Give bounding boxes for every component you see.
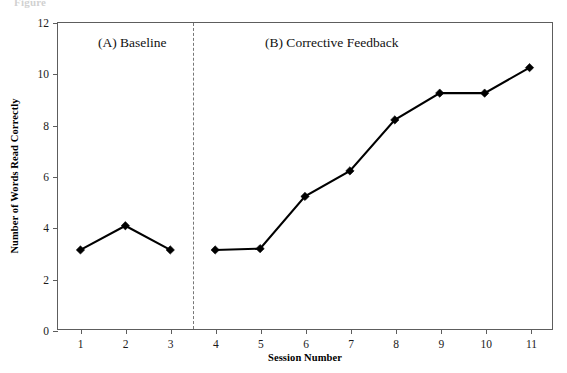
x-axis-tick: [486, 329, 487, 334]
x-axis-tick-label: 11: [526, 338, 537, 350]
x-axis-title: Session Number: [268, 352, 342, 363]
y-axis-tick: [53, 280, 58, 281]
x-axis-tick: [396, 329, 397, 334]
figure-root: Figure Number of Words Read Correctly Se…: [0, 0, 567, 373]
data-series-layer: [58, 23, 552, 329]
y-axis-tick-label: 2: [43, 274, 49, 286]
x-axis-tick: [81, 329, 82, 334]
data-point-marker: [256, 245, 264, 253]
y-axis-tick: [53, 74, 58, 75]
data-point-marker: [121, 222, 129, 230]
y-axis-tick-label: 12: [38, 17, 50, 29]
x-axis-tick-label: 6: [303, 338, 309, 350]
x-axis-tick: [261, 329, 262, 334]
y-axis-tick: [53, 331, 58, 332]
data-point-marker: [301, 192, 309, 200]
x-axis-tick: [306, 329, 307, 334]
y-axis-tick-label: 10: [38, 68, 50, 80]
x-axis-tick: [171, 329, 172, 334]
x-axis-tick-label: 5: [258, 338, 264, 350]
y-axis-tick-label: 0: [43, 325, 49, 337]
figure-caption-fragment: Figure: [14, 0, 46, 8]
data-point-marker: [346, 167, 354, 175]
phase-change-line: [193, 23, 194, 329]
x-axis-tick-label: 4: [213, 338, 219, 350]
x-axis-tick-label: 10: [481, 338, 493, 350]
data-point-marker: [166, 246, 174, 254]
x-axis-tick-label: 8: [393, 338, 399, 350]
y-axis-tick-label: 4: [43, 222, 49, 234]
data-point-marker: [211, 246, 219, 254]
y-axis-tick-label: 6: [43, 171, 49, 183]
y-axis-tick: [53, 126, 58, 127]
data-point-marker: [76, 246, 84, 254]
data-point-marker: [436, 89, 444, 97]
x-axis-tick: [351, 329, 352, 334]
x-axis-tick: [216, 329, 217, 334]
y-axis-tick: [53, 228, 58, 229]
x-axis-tick: [126, 329, 127, 334]
x-axis-tick-label: 2: [123, 338, 129, 350]
x-axis-tick-label: 1: [78, 338, 84, 350]
x-axis-tick-label: 3: [168, 338, 174, 350]
x-axis-tick-label: 9: [438, 338, 444, 350]
phase-label-corrective-feedback: (B) Corrective Feedback: [265, 35, 398, 51]
series-line-b: [215, 68, 529, 250]
data-point-marker: [480, 89, 488, 97]
x-axis-tick-label: 7: [348, 338, 354, 350]
phase-label-baseline: (A) Baseline: [98, 35, 167, 51]
plot-area: (A) Baseline (B) Corrective Feedback 024…: [57, 22, 553, 330]
data-point-marker: [525, 63, 533, 71]
y-axis-tick: [53, 177, 58, 178]
y-axis-tick: [53, 23, 58, 24]
x-axis-tick: [531, 329, 532, 334]
series-line-a: [80, 226, 170, 250]
y-axis-title: Number of Words Read Correctly: [9, 98, 20, 253]
x-axis-tick: [441, 329, 442, 334]
y-axis-tick-label: 8: [43, 120, 49, 132]
data-point-marker: [391, 116, 399, 124]
